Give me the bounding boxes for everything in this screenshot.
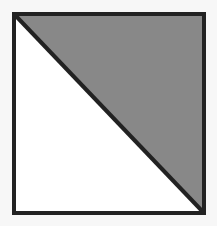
diagram-canvas (0, 0, 217, 226)
